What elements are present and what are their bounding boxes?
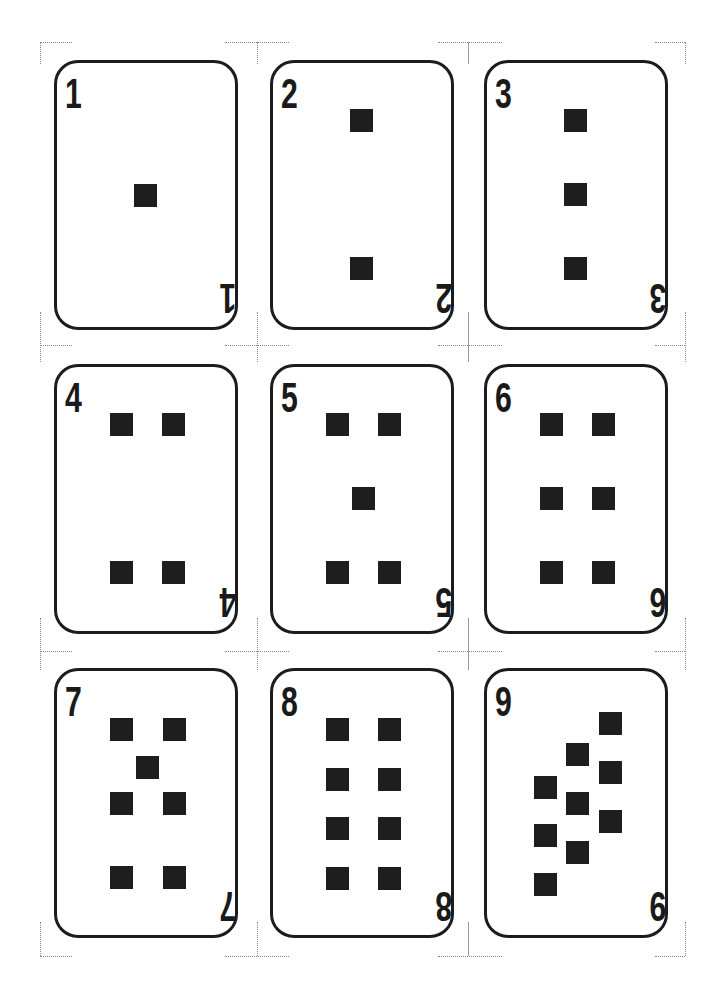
- pip-square-icon: [378, 718, 401, 741]
- cut-guide: [257, 42, 258, 64]
- pip-square-icon: [326, 768, 349, 791]
- cut-guide: [655, 42, 685, 43]
- cut-guide: [438, 651, 502, 652]
- pip-square-icon: [564, 109, 587, 132]
- rank-index-top: 6: [495, 377, 511, 419]
- cut-guide: [257, 618, 258, 670]
- cut-guide: [40, 312, 41, 362]
- rank-index-bottom: 3: [650, 277, 666, 319]
- cut-guide: [685, 618, 686, 670]
- cut-guide: [438, 42, 502, 43]
- pip-square-icon: [599, 810, 622, 833]
- pip-square-icon: [163, 718, 186, 741]
- cut-guide: [468, 312, 469, 362]
- cut-guide: [40, 42, 72, 43]
- pip-square-icon: [350, 257, 373, 280]
- pip-square-icon: [599, 761, 622, 784]
- rank-index-bottom: 2: [436, 277, 452, 319]
- pip-square-icon: [136, 756, 159, 779]
- cut-guide: [438, 956, 502, 957]
- card-4[interactable]: 4 4: [54, 364, 238, 634]
- pip-square-icon: [540, 413, 563, 436]
- rank-index-bottom: 1: [220, 277, 236, 319]
- card-3[interactable]: 3 3: [484, 60, 668, 330]
- rank-index-bottom: 8: [436, 885, 452, 927]
- pip-square-icon: [592, 487, 615, 510]
- pip-square-icon: [163, 866, 186, 889]
- rank-index-top: 5: [281, 377, 297, 419]
- pip-square-icon: [592, 561, 615, 584]
- pip-square-icon: [350, 109, 373, 132]
- rank-index-top: 3: [495, 73, 511, 115]
- pip-square-icon: [326, 718, 349, 741]
- pip-square-icon: [540, 487, 563, 510]
- cut-guide: [468, 42, 469, 64]
- rank-index-top: 8: [281, 681, 297, 723]
- cut-guide: [40, 345, 72, 346]
- cut-guide: [40, 42, 41, 64]
- card-5[interactable]: 5 5: [270, 364, 454, 634]
- rank-index-bottom: 9: [650, 885, 666, 927]
- rank-index-top: 7: [65, 681, 81, 723]
- cut-guide: [685, 42, 686, 64]
- cut-guide: [438, 345, 502, 346]
- pip-square-icon: [534, 873, 557, 896]
- pip-square-icon: [534, 824, 557, 847]
- pip-square-icon: [110, 866, 133, 889]
- pip-square-icon: [564, 183, 587, 206]
- pip-square-icon: [110, 413, 133, 436]
- card-7[interactable]: 7 7: [54, 668, 238, 938]
- pip-square-icon: [378, 561, 401, 584]
- cut-guide: [40, 956, 72, 957]
- card-2[interactable]: 2 2: [270, 60, 454, 330]
- pip-square-icon: [566, 743, 589, 766]
- cut-guide: [257, 312, 258, 362]
- rank-index-bottom: 7: [220, 885, 236, 927]
- rank-index-top: 1: [65, 73, 81, 115]
- pip-square-icon: [378, 817, 401, 840]
- pip-square-icon: [326, 561, 349, 584]
- pip-square-icon: [110, 718, 133, 741]
- pip-square-icon: [326, 817, 349, 840]
- cut-guide: [655, 345, 685, 346]
- pip-square-icon: [110, 561, 133, 584]
- pip-square-icon: [326, 867, 349, 890]
- pip-square-icon: [540, 561, 563, 584]
- cut-guide: [225, 956, 289, 957]
- pip-square-icon: [352, 487, 375, 510]
- rank-index-top: 4: [65, 377, 81, 419]
- rank-index-top: 9: [495, 681, 511, 723]
- cut-guide: [225, 651, 289, 652]
- pip-square-icon: [592, 413, 615, 436]
- cut-guide: [655, 651, 685, 652]
- pip-square-icon: [534, 776, 557, 799]
- pip-square-icon: [566, 792, 589, 815]
- cut-guide: [655, 956, 685, 957]
- card-9[interactable]: 9 9: [484, 668, 668, 938]
- cut-guide: [685, 922, 686, 956]
- cut-guide: [225, 42, 289, 43]
- rank-index-bottom: 4: [220, 581, 236, 623]
- card-8[interactable]: 8 8: [270, 668, 454, 938]
- pip-square-icon: [162, 561, 185, 584]
- rank-index-bottom: 5: [436, 581, 452, 623]
- cut-guide: [257, 922, 258, 956]
- pip-square-icon: [378, 867, 401, 890]
- cut-guide: [40, 922, 41, 956]
- cut-guide: [685, 312, 686, 362]
- card-1[interactable]: 1 1: [54, 60, 238, 330]
- card-6[interactable]: 6 6: [484, 364, 668, 634]
- pip-square-icon: [599, 712, 622, 735]
- pip-square-icon: [378, 413, 401, 436]
- pip-square-icon: [162, 413, 185, 436]
- cut-guide: [225, 345, 289, 346]
- cut-guide: [468, 618, 469, 670]
- pip-square-icon: [110, 792, 133, 815]
- pip-square-icon: [163, 792, 186, 815]
- rank-index-bottom: 6: [650, 581, 666, 623]
- cut-guide: [468, 922, 469, 956]
- pip-square-icon: [566, 841, 589, 864]
- pip-square-icon: [134, 184, 157, 207]
- pip-square-icon: [378, 768, 401, 791]
- cut-guide: [40, 618, 41, 670]
